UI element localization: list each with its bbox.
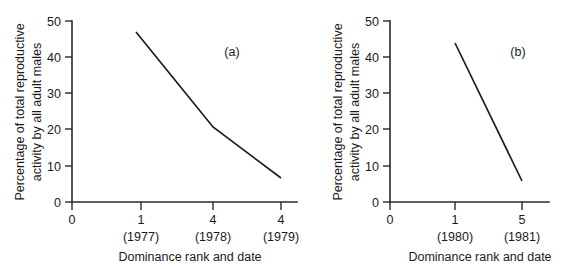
- y-axis-title-line1: Percentage of total reproductive: [331, 23, 345, 200]
- x-axis-title: Dominance rank and date: [408, 250, 551, 264]
- x-tick-label-1: 1: [452, 213, 459, 227]
- y-tick-label-10: 10: [365, 160, 379, 174]
- y-tick-label-0: 0: [54, 196, 61, 210]
- y-tick-label-50: 50: [47, 15, 61, 29]
- y-tick-label-0: 0: [372, 196, 379, 210]
- x-tick-sublabel-1: (1980): [437, 230, 473, 244]
- panel-tag-a: (a): [224, 45, 239, 59]
- y-axis-title-line2: activity by all adult males: [348, 43, 362, 181]
- y-tick-label-30: 30: [365, 87, 379, 101]
- data-series-line: [455, 43, 522, 181]
- y-tick-label-20: 20: [365, 123, 379, 137]
- y-axis-title-line1: Percentage of total reproductive: [13, 23, 27, 200]
- x-tick-sublabel-2: (1981): [504, 230, 540, 244]
- y-tick-label-40: 40: [47, 51, 61, 65]
- x-axis-title: Dominance rank and date: [118, 250, 261, 264]
- panel-b-plot: 50 40 30 20 10 0 0 1 5 (1980) (1981) Dom…: [300, 0, 578, 269]
- y-tick-label-50: 50: [365, 15, 379, 29]
- y-tick-label-40: 40: [365, 51, 379, 65]
- x-tick-label-2: 5: [519, 213, 526, 227]
- x-tick-label-0: 0: [69, 213, 76, 227]
- x-tick-label-1: 1: [138, 213, 145, 227]
- chart-panel-a: 50 40 30 20 10 0 0 1 4 4 (1977) (1978) (…: [0, 0, 300, 269]
- x-tick-label-0: 0: [387, 213, 394, 227]
- y-axis-title-line2: activity by all adult males: [30, 43, 44, 181]
- figure-container: 50 40 30 20 10 0 0 1 4 4 (1977) (1978) (…: [0, 0, 578, 269]
- y-tick-label-10: 10: [47, 160, 61, 174]
- chart-panel-b: 50 40 30 20 10 0 0 1 5 (1980) (1981) Dom…: [300, 0, 578, 269]
- x-tick-sublabel-3: (1979): [263, 230, 299, 244]
- x-tick-sublabel-1: (1977): [123, 230, 159, 244]
- panel-tag-b: (b): [510, 45, 525, 59]
- x-tick-sublabel-2: (1978): [195, 230, 231, 244]
- x-tick-label-2: 4: [210, 213, 217, 227]
- panel-a-plot: 50 40 30 20 10 0 0 1 4 4 (1977) (1978) (…: [0, 0, 300, 269]
- y-tick-label-30: 30: [47, 87, 61, 101]
- data-series-line: [136, 32, 281, 178]
- x-tick-label-3: 4: [278, 213, 285, 227]
- y-tick-label-20: 20: [47, 123, 61, 137]
